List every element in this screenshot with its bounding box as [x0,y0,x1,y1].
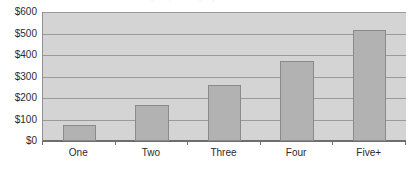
x-axis-tick-label: One [42,147,115,159]
x-axis-tick-label: Three [187,147,260,159]
x-axis-tick-label: Four [260,147,333,159]
x-axis-tick [260,141,261,145]
x-axis-ticks [42,141,405,145]
bar-slot [208,12,241,141]
plot-area [42,12,406,141]
x-axis-tick [332,141,333,145]
y-axis-tick-label: $300 [0,72,37,82]
bar[interactable] [63,125,96,141]
y-axis-tick-label: $600 [0,7,37,17]
y-axis-tick-label: $0 [0,136,37,146]
y-axis-tick-label: $100 [0,115,37,125]
y-axis-tick-label: $500 [0,29,37,39]
x-axis-tick [187,141,188,145]
bar[interactable] [208,85,241,141]
bar-slot [135,12,168,141]
bar[interactable] [280,61,313,141]
y-axis-tick-label: $200 [0,93,37,103]
bar-slot [280,12,313,141]
bar-slot [63,12,96,141]
bars-layer [43,12,406,141]
x-axis-tick-label: Five+ [332,147,405,159]
chart-title-text: Average Spending by Household Size [0,0,411,2]
x-axis-tick [115,141,116,145]
y-axis: $0$100$200$300$400$500$600 [0,0,42,173]
bar-slot [353,12,386,141]
bar[interactable] [353,30,386,141]
bar[interactable] [135,105,168,141]
x-axis-tick [405,141,406,145]
x-axis: OneTwoThreeFourFive+ [42,147,405,167]
bar-chart: Average Spending by Household Size $0$10… [0,0,411,173]
chart-title-cropped: Average Spending by Household Size [0,0,411,6]
y-axis-tick-label: $400 [0,50,37,60]
x-axis-tick-label: Two [115,147,188,159]
x-axis-tick [42,141,43,145]
